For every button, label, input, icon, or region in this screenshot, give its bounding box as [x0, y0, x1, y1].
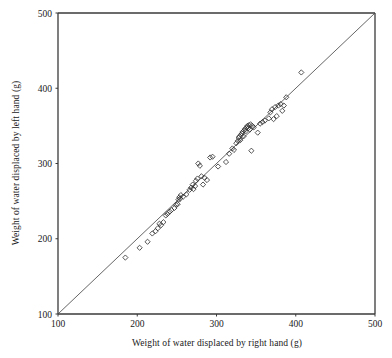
- data-point-marker: [145, 239, 150, 244]
- identity-reference-line: [58, 13, 375, 314]
- y-tick-label: 400: [38, 84, 53, 94]
- x-tick-labels: 100200300400500: [51, 314, 383, 329]
- y-tick-label: 300: [38, 159, 53, 169]
- identity-line: [58, 13, 375, 314]
- data-point-marker: [153, 229, 158, 234]
- data-points: [123, 70, 304, 260]
- data-point-marker: [215, 164, 220, 169]
- x-tick-label: 200: [130, 319, 145, 329]
- data-point-marker: [137, 245, 142, 250]
- data-point-marker: [223, 159, 228, 164]
- y-tick-label: 500: [38, 9, 53, 19]
- y-tick-labels: 100200300400500: [38, 9, 58, 320]
- data-point-marker: [280, 108, 285, 113]
- y-tick-label: 200: [38, 234, 53, 244]
- x-tick-label: 400: [289, 319, 304, 329]
- y-tick-label: 100: [38, 310, 53, 320]
- data-point-marker: [150, 231, 155, 236]
- y-axis-label: Weight of water displaced by left hand (…: [11, 43, 21, 283]
- x-tick-label: 300: [209, 319, 224, 329]
- data-point-marker: [200, 182, 205, 187]
- x-axis-label: Weight of water displaced by right hand …: [58, 338, 376, 348]
- x-tick-label: 500: [368, 319, 383, 329]
- data-point-marker: [123, 255, 128, 260]
- data-point-marker: [255, 130, 260, 135]
- x-tick-label: 100: [51, 319, 66, 329]
- plot-canvas: 100200300400500 100200300400500: [0, 0, 392, 358]
- data-point-marker: [299, 70, 304, 75]
- scatter-plot-figure: Weight of water displaced by left hand (…: [0, 0, 392, 358]
- data-point-marker: [249, 148, 254, 153]
